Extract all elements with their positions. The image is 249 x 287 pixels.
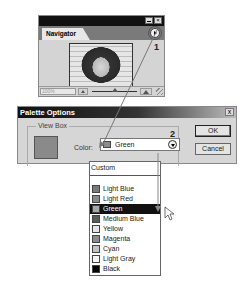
- selected-color-value: Green: [115, 140, 134, 150]
- dropdown-item[interactable]: Light Red: [90, 194, 160, 204]
- view-box-group: View Box Color: Green 2: [27, 126, 179, 166]
- dropdown-item-label: Medium Blue: [103, 214, 144, 224]
- color-swatch: [92, 265, 100, 273]
- minimize-button[interactable]: [145, 17, 153, 24]
- selected-color-swatch: [103, 141, 111, 148]
- color-preview-swatch: [34, 136, 58, 159]
- color-swatch: [92, 185, 100, 193]
- zoom-out-icon[interactable]: [78, 88, 88, 95]
- close-palette-button[interactable]: ×: [154, 17, 162, 24]
- color-swatch: [92, 205, 100, 213]
- dropdown-item-selected[interactable]: Green: [90, 204, 160, 214]
- palette-menu-arrow-icon[interactable]: [150, 28, 160, 38]
- color-swatch: [92, 225, 100, 233]
- dropdown-item-label: Yellow: [103, 224, 123, 234]
- resize-grip-icon[interactable]: [156, 88, 163, 95]
- ok-button[interactable]: OK: [195, 125, 231, 137]
- dialog-close-button[interactable]: x: [225, 108, 234, 116]
- dropdown-item[interactable]: Magenta: [90, 234, 160, 244]
- dropdown-item[interactable]: Medium Blue: [90, 214, 160, 224]
- tab-navigator[interactable]: Navigator: [42, 28, 90, 40]
- navigator-controls: 100%: [39, 86, 164, 96]
- navigator-thumbnail-image[interactable]: [69, 43, 133, 87]
- navigator-palette: × Navigator 1 100%: [38, 15, 165, 97]
- color-swatch: [92, 235, 100, 243]
- color-dropdown-list[interactable]: Custom Light Blue Light Red Green Medium…: [89, 161, 161, 276]
- color-select[interactable]: Green: [100, 138, 180, 151]
- dropdown-item-label: Light Gray: [103, 254, 135, 264]
- zoom-slider[interactable]: [92, 91, 137, 92]
- dropdown-item[interactable]: Black: [90, 264, 160, 274]
- color-swatch: [92, 195, 100, 203]
- dropdown-item-label: Light Red: [103, 194, 133, 204]
- zoom-slider-thumb[interactable]: [112, 88, 118, 92]
- dialog-title: Palette Options: [18, 107, 236, 118]
- dropdown-separator: [90, 175, 160, 176]
- color-swatch: [92, 245, 100, 253]
- dropdown-item-label: Black: [103, 264, 120, 274]
- dropdown-item-label: Cyan: [103, 244, 119, 254]
- color-swatch: [92, 215, 100, 223]
- chevron-down-icon[interactable]: [168, 140, 177, 149]
- dropdown-item[interactable]: Cyan: [90, 244, 160, 254]
- dropdown-item-label: Green: [103, 204, 122, 214]
- palette-options-dialog: Palette Options x View Box Color: Green …: [17, 106, 237, 164]
- zoom-in-icon[interactable]: [140, 88, 152, 95]
- dropdown-item-custom[interactable]: Custom: [91, 163, 115, 173]
- dropdown-item[interactable]: Light Blue: [90, 184, 160, 194]
- color-swatch: [92, 255, 100, 263]
- callout-number-2: 2: [170, 129, 175, 139]
- dropdown-item[interactable]: Light Gray: [90, 254, 160, 264]
- dropdown-item-label: Light Blue: [103, 184, 134, 194]
- dropdown-item[interactable]: Yellow: [90, 224, 160, 234]
- mouse-cursor-icon: [165, 207, 174, 220]
- callout-number-1: 1: [154, 42, 159, 52]
- dropdown-item-label: Magenta: [103, 234, 130, 244]
- view-box-label: View Box: [36, 122, 69, 129]
- cancel-button[interactable]: Cancel: [195, 143, 231, 155]
- color-label: Color:: [74, 144, 93, 151]
- zoom-percentage-input[interactable]: 100%: [40, 88, 76, 95]
